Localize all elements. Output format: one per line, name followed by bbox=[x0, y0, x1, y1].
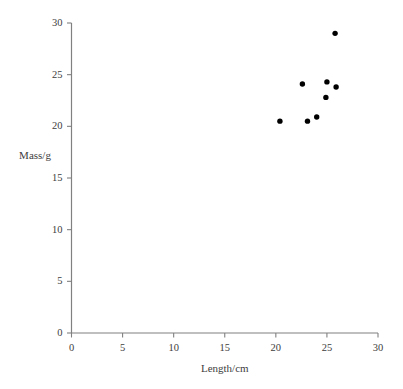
x-axis-title: Length/cm bbox=[201, 363, 249, 374]
data-point bbox=[324, 79, 329, 84]
data-point-group bbox=[277, 31, 339, 124]
data-point bbox=[333, 84, 338, 89]
x-axis-tick-label: 5 bbox=[120, 343, 125, 354]
y-axis-tick-label: 0 bbox=[57, 328, 62, 339]
x-axis-tick-label: 25 bbox=[322, 343, 333, 354]
y-axis-tick-label: 30 bbox=[52, 18, 63, 29]
x-axis-tick-label: 0 bbox=[69, 343, 74, 354]
x-axis-tick-label: 15 bbox=[220, 343, 231, 354]
y-axis-title: Mass/g bbox=[19, 150, 51, 161]
data-point bbox=[300, 81, 305, 86]
x-axis-tick-label: 20 bbox=[271, 343, 282, 354]
data-point bbox=[332, 31, 337, 36]
y-axis-tick-label: 15 bbox=[52, 173, 63, 184]
data-point bbox=[323, 95, 328, 100]
x-axis-tick-label: 30 bbox=[373, 343, 384, 354]
x-axis-tick-label: 10 bbox=[168, 343, 179, 354]
y-axis-tick-label: 10 bbox=[52, 224, 63, 235]
y-axis-tick-label: 5 bbox=[57, 276, 62, 287]
scatter-plot-figure: 051015202530051015202530 Mass/g Length/c… bbox=[0, 0, 403, 389]
y-axis-tick-label: 25 bbox=[52, 69, 63, 80]
y-axis-tick-label: 20 bbox=[52, 121, 63, 132]
data-point bbox=[314, 114, 319, 119]
data-point bbox=[305, 118, 310, 123]
data-point bbox=[277, 118, 282, 123]
